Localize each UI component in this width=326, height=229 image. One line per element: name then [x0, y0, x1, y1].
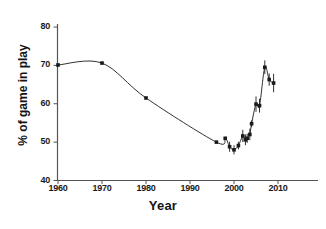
data-point-marker — [228, 145, 232, 149]
y-axis-title: % of game in play — [16, 20, 30, 170]
data-point-marker — [241, 134, 245, 138]
chart-figure: 4050607080 196019701980199020002010 Year… — [0, 0, 326, 229]
x-axis-title: Year — [0, 198, 326, 213]
data-point-marker — [144, 96, 148, 100]
data-point-marker — [237, 144, 241, 148]
x-tick-label: 1980 — [128, 183, 164, 193]
data-point-marker — [254, 102, 258, 106]
data-point-marker — [258, 104, 262, 108]
plot-area — [0, 0, 326, 229]
data-point-marker — [100, 61, 104, 65]
axis-lines — [58, 24, 319, 181]
data-point-marker — [56, 63, 60, 67]
data-point-marker — [250, 122, 254, 126]
x-tick-label: 2000 — [216, 183, 252, 193]
error-bars — [230, 60, 274, 154]
data-point-marker — [245, 136, 249, 140]
x-tick-label: 1970 — [84, 183, 120, 193]
data-point-marker — [263, 65, 267, 69]
x-tick-label: 1960 — [40, 183, 76, 193]
data-point-marker — [215, 140, 219, 144]
x-tick-label: 2010 — [260, 183, 296, 193]
data-point-marker — [232, 148, 236, 152]
data-point-marker — [248, 133, 252, 137]
x-tick-label: 1990 — [172, 183, 208, 193]
data-point-marker — [223, 136, 227, 140]
data-point-marker — [272, 81, 276, 85]
data-point-marker — [267, 78, 271, 82]
